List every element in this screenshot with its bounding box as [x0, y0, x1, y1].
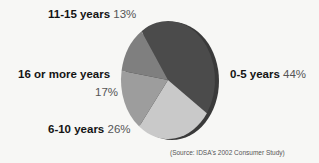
label-16-or-more-percent: 17%	[95, 86, 118, 99]
label-category: 6-10 years	[48, 123, 104, 135]
pie-slices	[121, 21, 219, 140]
source-note: (Source: IDSA's 2002 Consumer Study)	[170, 149, 285, 156]
label-percent: 17%	[95, 86, 118, 98]
label-6-10-years: 6-10 years 26%	[48, 123, 131, 136]
pie-graphic	[0, 0, 319, 163]
label-percent: 44%	[283, 68, 306, 80]
label-percent: 13%	[113, 8, 136, 20]
label-16-or-more-years: 16 or more years	[18, 68, 110, 81]
label-11-15-years: 11-15 years 13%	[48, 8, 136, 21]
pie-chart: 11-15 years 13% 16 or more years 17% 6-1…	[0, 0, 319, 163]
label-category: 11-15 years	[48, 8, 110, 20]
label-0-5-years: 0-5 years 44%	[230, 68, 306, 81]
label-category: 0-5 years	[230, 68, 280, 80]
label-category: 16 or more years	[18, 68, 110, 80]
label-percent: 26%	[107, 123, 130, 135]
